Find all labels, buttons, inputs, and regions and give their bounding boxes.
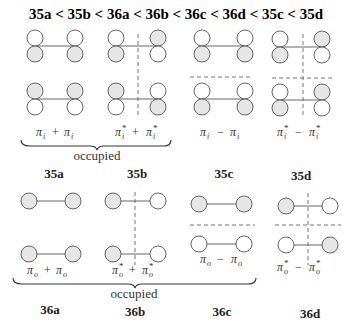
- svg-text:*: *: [284, 258, 289, 268]
- svg-text:π: π: [200, 125, 207, 139]
- svg-text:i: i: [43, 132, 45, 141]
- svg-text:π: π: [230, 125, 237, 139]
- lower-pair: [194, 83, 253, 115]
- diagram-36c: [190, 196, 255, 252]
- svg-text:35a: 35a: [44, 166, 64, 181]
- svg-text:*: *: [316, 258, 321, 268]
- svg-text:π: π: [200, 252, 207, 266]
- svg-text:i: i: [237, 132, 239, 141]
- svg-text:*: *: [316, 123, 321, 133]
- svg-text:−: −: [295, 125, 302, 139]
- svg-text:π: π: [64, 125, 71, 139]
- svg-text:+: +: [52, 125, 59, 139]
- lower-pair: [108, 83, 166, 115]
- svg-text:o: o: [316, 267, 320, 276]
- svg-text:*: *: [149, 261, 154, 271]
- upper-pair: [27, 30, 83, 62]
- svg-text:o: o: [238, 259, 242, 268]
- svg-text:i: i: [71, 132, 73, 141]
- svg-text:π: π: [146, 125, 153, 139]
- diagram-35b: [108, 30, 166, 118]
- svg-text:−: −: [217, 252, 224, 266]
- upper-pair: [194, 30, 253, 62]
- occupied-label-bottom: occupied: [111, 286, 158, 301]
- energy-order-title: 35a < 35b < 36a < 36b < 36c < 36d < 35c …: [29, 6, 324, 22]
- svg-text:36b: 36b: [125, 304, 145, 319]
- svg-text:o: o: [207, 259, 211, 268]
- svg-text:π: π: [309, 125, 316, 139]
- diagram-36a: [21, 193, 81, 262]
- svg-text:o: o: [284, 267, 288, 276]
- upper-pair: [108, 30, 166, 62]
- svg-text:+: +: [129, 263, 136, 277]
- lower-pair: [272, 84, 330, 116]
- svg-text:π: π: [142, 263, 149, 277]
- formula-35b: π i * + π i *: [115, 123, 158, 141]
- diagram-35c: [190, 30, 253, 115]
- diagram-36b: [105, 192, 166, 265]
- svg-text:o: o: [34, 270, 38, 279]
- svg-text:π: π: [27, 263, 34, 277]
- svg-text:36a: 36a: [40, 302, 60, 317]
- svg-text:o: o: [149, 270, 153, 279]
- formula-35a: π i + π i: [36, 125, 73, 141]
- formula-36a: π o + π o: [27, 263, 67, 279]
- occupied-label-top: occupied: [74, 148, 121, 163]
- svg-text:−: −: [295, 260, 302, 274]
- svg-text:π: π: [309, 260, 316, 274]
- svg-text:o: o: [63, 270, 67, 279]
- svg-text:35c: 35c: [215, 166, 234, 181]
- svg-text:+: +: [44, 263, 51, 277]
- svg-text:π: π: [277, 260, 284, 274]
- formula-36b: π o * + π o *: [112, 261, 154, 279]
- labels-35: 35a 35b 35c 35d: [44, 166, 312, 183]
- svg-text:*: *: [119, 261, 124, 271]
- svg-text:π: π: [115, 125, 122, 139]
- svg-text:36d: 36d: [300, 306, 321, 321]
- svg-text:i: i: [153, 132, 155, 141]
- diagram-35d: [272, 31, 333, 118]
- formula-35d: π i * − π i *: [277, 123, 321, 141]
- upper-pair: [272, 31, 330, 63]
- svg-text:π: π: [56, 263, 63, 277]
- svg-text:i: i: [207, 132, 209, 141]
- labels-36: 36a 36b 36c 36d: [40, 302, 321, 321]
- svg-text:o: o: [119, 270, 123, 279]
- svg-text:π: π: [277, 125, 284, 139]
- svg-text:*: *: [153, 123, 158, 133]
- diagram-36d: [275, 193, 341, 265]
- svg-text:+: +: [132, 125, 139, 139]
- svg-text:−: −: [217, 125, 224, 139]
- svg-text:35b: 35b: [127, 166, 147, 181]
- svg-text:i: i: [122, 132, 124, 141]
- formula-36d: π o * − π o *: [277, 258, 321, 276]
- svg-text:i: i: [316, 132, 318, 141]
- diagram-35a: [27, 30, 83, 115]
- svg-text:*: *: [284, 123, 289, 133]
- svg-text:π: π: [231, 252, 238, 266]
- lower-pair: [27, 83, 83, 115]
- orbital-diagram: .lobe { stroke: #555; stroke-width: 0.9;…: [0, 0, 353, 325]
- svg-text:π: π: [36, 125, 43, 139]
- svg-text:π: π: [112, 263, 119, 277]
- svg-text:i: i: [284, 132, 286, 141]
- svg-text:*: *: [122, 123, 127, 133]
- formula-35c: π i − π i: [200, 125, 239, 141]
- svg-text:35d: 35d: [291, 168, 312, 183]
- svg-text:36c: 36c: [213, 304, 232, 319]
- formula-36c: π o − π o: [200, 252, 242, 268]
